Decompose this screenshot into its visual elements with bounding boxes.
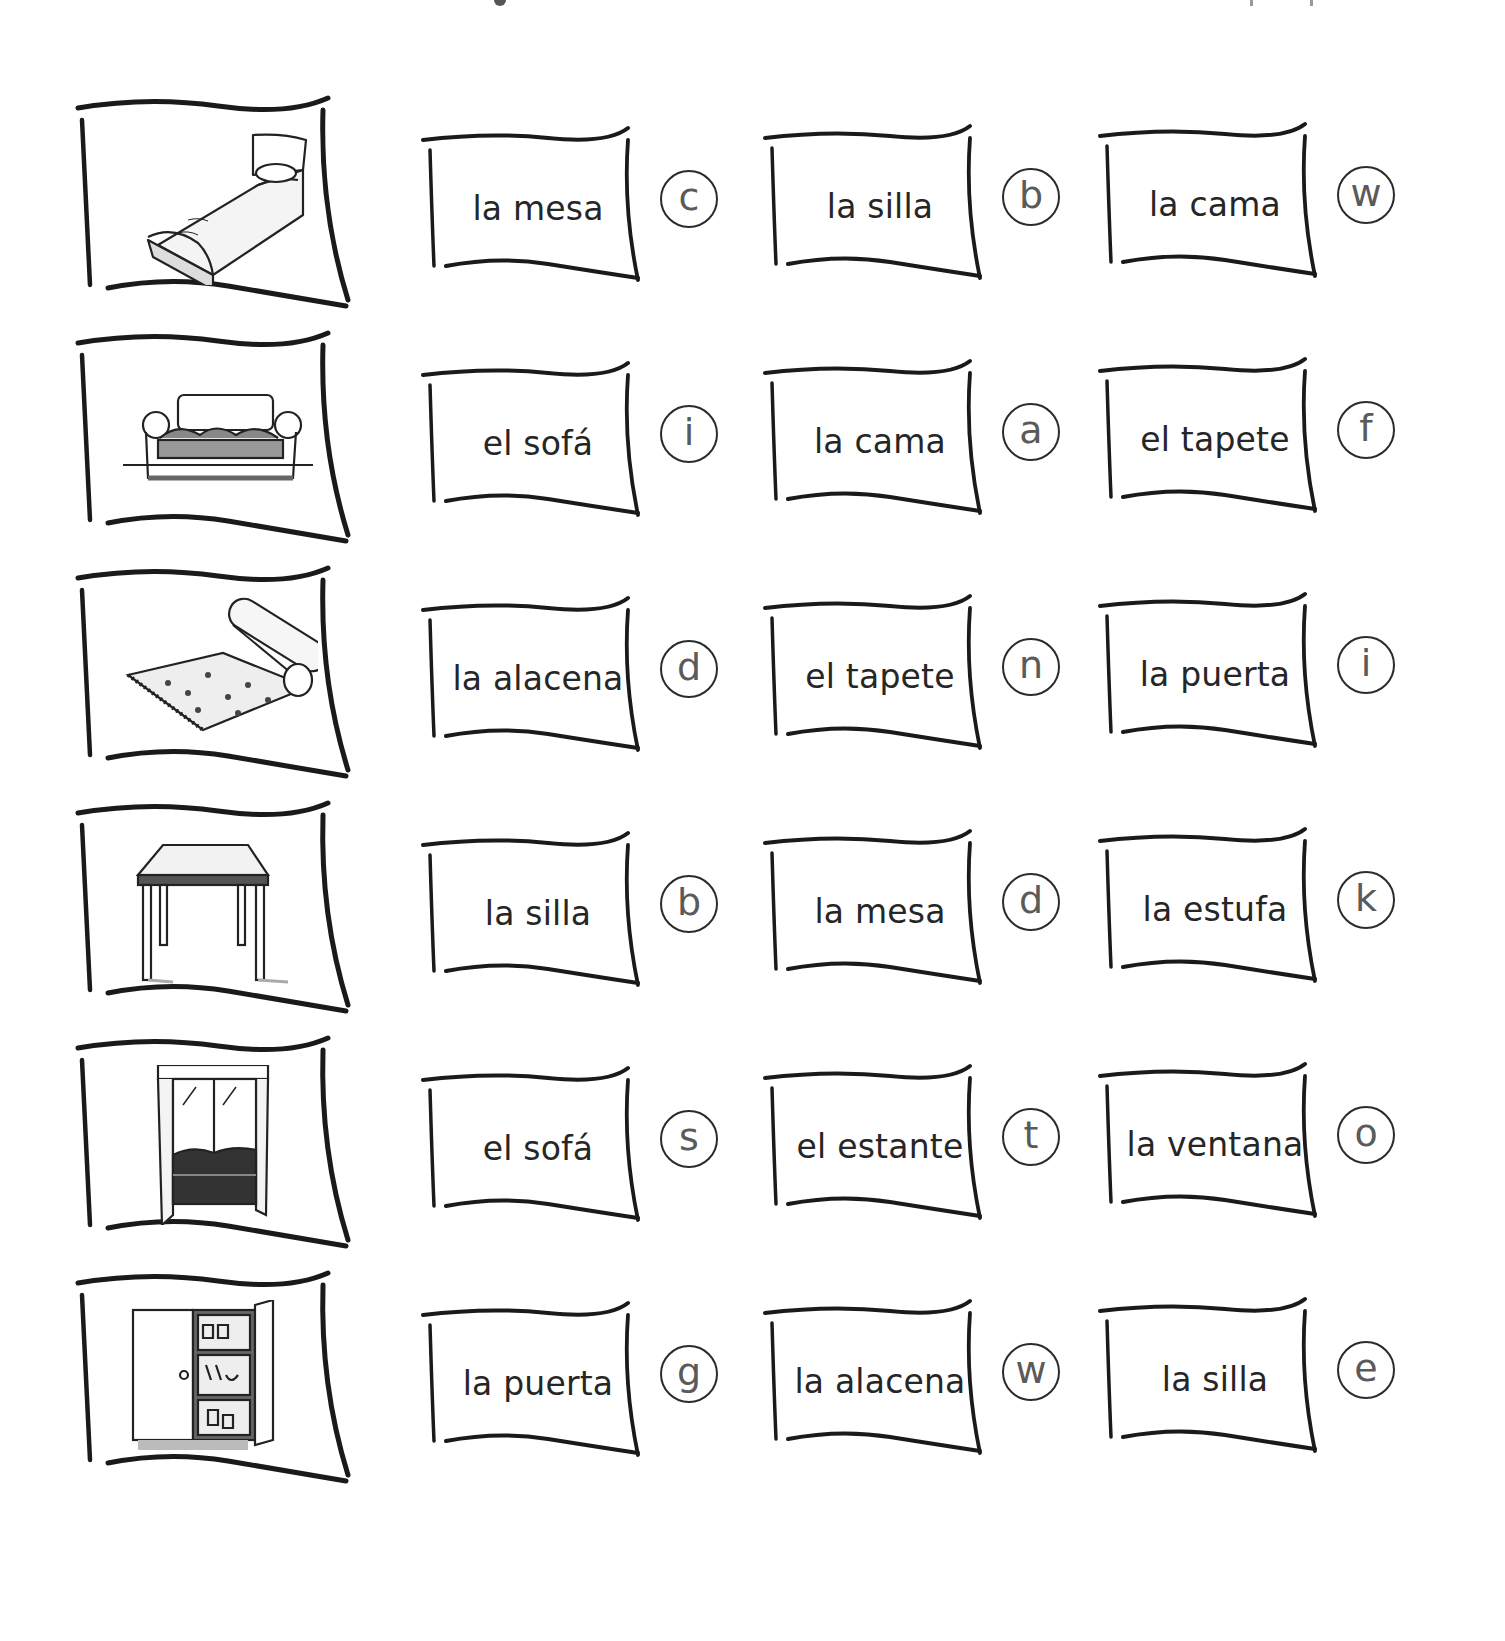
word-choice[interactable]: la sillab	[428, 805, 768, 1035]
word-label: la cama	[770, 361, 990, 521]
word-choice[interactable]: la mesad	[770, 805, 1110, 1035]
word-box[interactable]: la cama	[770, 361, 990, 521]
exercise-row-3: la alacenadel tapetenla puertai	[0, 570, 1505, 800]
word-label: el estante	[770, 1066, 990, 1226]
word-choice[interactable]: el sofái	[428, 335, 768, 565]
word-choice[interactable]: la camaw	[1105, 100, 1445, 330]
circled-letter[interactable]: i	[1337, 636, 1395, 694]
word-box[interactable]: el sofá	[428, 363, 648, 523]
cutoff-title-fragment	[1250, 0, 1253, 6]
picture-frame	[78, 570, 358, 780]
word-box[interactable]: el tapete	[1105, 359, 1325, 519]
word-choice[interactable]: la camaa	[770, 335, 1110, 565]
word-box[interactable]: la silla	[428, 833, 648, 993]
word-choice[interactable]: el estantet	[770, 1040, 1110, 1270]
worksheet: la mesacla sillabla camaw el sofáila cam…	[0, 0, 1505, 1641]
word-label: la alacena	[428, 598, 648, 758]
word-box[interactable]: el sofá	[428, 1068, 648, 1228]
circled-letter[interactable]: b	[660, 875, 718, 933]
exercise-row-1: la mesacla sillabla camaw	[0, 100, 1505, 330]
word-box[interactable]: la cama	[1105, 124, 1325, 284]
word-label: la puerta	[428, 1303, 648, 1463]
word-box[interactable]: la estufa	[1105, 829, 1325, 989]
circled-letter[interactable]: w	[1337, 166, 1395, 224]
circled-letter[interactable]: e	[1337, 1341, 1395, 1399]
word-box[interactable]: la silla	[1105, 1299, 1325, 1459]
word-label: la ventana	[1105, 1064, 1325, 1224]
circled-letter[interactable]: i	[660, 405, 718, 463]
circled-letter[interactable]: b	[1002, 168, 1060, 226]
circled-letter[interactable]: t	[1002, 1108, 1060, 1166]
bed-icon	[118, 125, 318, 285]
word-choice[interactable]: el tapetef	[1105, 335, 1445, 565]
cutoff-title-fragment	[494, 0, 506, 6]
word-label: el sofá	[428, 1068, 648, 1228]
word-choice[interactable]: la sillae	[1105, 1275, 1445, 1505]
circled-letter[interactable]: d	[1002, 873, 1060, 931]
word-choice[interactable]: la puertag	[428, 1275, 768, 1505]
sofa-icon	[118, 360, 318, 520]
cutoff-title-fragment	[1310, 0, 1313, 6]
word-box[interactable]: la alacena	[428, 598, 648, 758]
picture-frame	[78, 100, 358, 310]
word-label: la estufa	[1105, 829, 1325, 989]
circled-letter[interactable]: o	[1337, 1106, 1395, 1164]
word-choice[interactable]: la sillab	[770, 100, 1110, 330]
word-label: la mesa	[770, 831, 990, 991]
word-choice[interactable]: la ventanao	[1105, 1040, 1445, 1270]
word-choice[interactable]: la mesac	[428, 100, 768, 330]
word-label: la alacena	[770, 1301, 990, 1461]
word-label: la silla	[428, 833, 648, 993]
circled-letter[interactable]: g	[660, 1345, 718, 1403]
word-box[interactable]: el tapete	[770, 596, 990, 756]
table-icon	[118, 830, 318, 990]
circled-letter[interactable]: f	[1337, 401, 1395, 459]
circled-letter[interactable]: s	[660, 1110, 718, 1168]
word-label: el tapete	[770, 596, 990, 756]
circled-letter[interactable]: a	[1002, 403, 1060, 461]
word-label: la cama	[1105, 124, 1325, 284]
word-choice[interactable]: la alacenaw	[770, 1275, 1110, 1505]
picture-frame	[78, 335, 358, 545]
word-label: la silla	[1105, 1299, 1325, 1459]
circled-letter[interactable]: n	[1002, 638, 1060, 696]
word-box[interactable]: la silla	[770, 126, 990, 286]
circled-letter[interactable]: k	[1337, 871, 1395, 929]
word-choice[interactable]: el sofás	[428, 1040, 768, 1270]
word-box[interactable]: la alacena	[770, 1301, 990, 1461]
circled-letter[interactable]: d	[660, 640, 718, 698]
exercise-row-2: el sofáila camaael tapetef	[0, 335, 1505, 565]
word-label: el sofá	[428, 363, 648, 523]
word-choice[interactable]: la alacenad	[428, 570, 768, 800]
word-box[interactable]: la puerta	[428, 1303, 648, 1463]
picture-frame	[78, 1275, 358, 1485]
window-icon	[118, 1065, 318, 1225]
word-choice[interactable]: la puertai	[1105, 570, 1445, 800]
word-label: el tapete	[1105, 359, 1325, 519]
word-box[interactable]: el estante	[770, 1066, 990, 1226]
rug-icon	[118, 595, 318, 755]
exercise-row-4: la sillabla mesadla estufak	[0, 805, 1505, 1035]
word-label: la puerta	[1105, 594, 1325, 754]
word-box[interactable]: la mesa	[770, 831, 990, 991]
exercise-row-6: la puertagla alacenawla sillae	[0, 1275, 1505, 1505]
word-box[interactable]: la ventana	[1105, 1064, 1325, 1224]
word-box[interactable]: la mesa	[428, 128, 648, 288]
word-choice[interactable]: la estufak	[1105, 805, 1445, 1035]
word-label: la mesa	[428, 128, 648, 288]
exercise-row-5: el sofásel estantetla ventanao	[0, 1040, 1505, 1270]
picture-frame	[78, 1040, 358, 1250]
picture-frame	[78, 805, 358, 1015]
circled-letter[interactable]: c	[660, 170, 718, 228]
cupboard-icon	[118, 1300, 318, 1460]
word-choice[interactable]: el tapeten	[770, 570, 1110, 800]
word-box[interactable]: la puerta	[1105, 594, 1325, 754]
word-label: la silla	[770, 126, 990, 286]
circled-letter[interactable]: w	[1002, 1343, 1060, 1401]
